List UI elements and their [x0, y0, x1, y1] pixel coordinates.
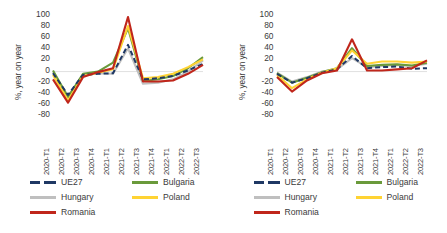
x-tick-label: 2022-T1: [163, 148, 171, 175]
x-axis-tick-labels-right: 2020-T12020-T22020-T32020-T42021-T12021-…: [277, 119, 427, 175]
y-tick-label: -40: [261, 88, 273, 96]
y-tick-label: 20: [41, 54, 50, 62]
x-tick-label: 2022-T3: [193, 148, 201, 175]
legend-item-romania[interactable]: Romania: [254, 208, 319, 217]
legend-label: Romania: [61, 208, 95, 217]
y-axis-tick-labels-right: 100806040200-20-40-60-80: [248, 14, 274, 118]
y-tick-label: -20: [38, 77, 50, 85]
x-tick-label: 2020-T3: [297, 148, 305, 175]
series-line-bulgaria: [277, 48, 427, 82]
x-tick-label: 2022-T1: [387, 148, 395, 175]
legend-item-poland[interactable]: Poland: [356, 193, 414, 202]
legend-label: Bulgaria: [387, 178, 419, 187]
legend-label: Bulgaria: [163, 178, 195, 187]
y-tick-label: -60: [261, 99, 273, 107]
x-tick-label: 2021-T4: [148, 148, 156, 175]
legend-item-ue27[interactable]: UE27: [30, 178, 83, 187]
plot-area-left: [53, 16, 203, 116]
y-tick-label: 40: [41, 43, 50, 51]
legend-label: UE27: [61, 178, 83, 187]
legend-label: Poland: [387, 193, 414, 202]
x-tick-label: 2020-T3: [73, 148, 81, 175]
y-tick-label: -40: [38, 88, 50, 96]
y-tick-label: 20: [264, 54, 273, 62]
legend-swatch-icon: [30, 211, 56, 214]
y-tick-label: 40: [264, 43, 273, 51]
x-tick-label: 2021-T4: [372, 148, 380, 175]
x-tick-label: 2022-T2: [402, 148, 410, 175]
y-tick-label: 80: [264, 21, 273, 29]
x-tick-label: 2021-T3: [357, 148, 365, 175]
plot-area-right: [277, 16, 427, 116]
x-axis-tick-labels-left: 2020-T12020-T22020-T32020-T42021-T12021-…: [53, 119, 203, 175]
x-tick-label: 2021-T2: [342, 148, 350, 175]
legend-item-romania[interactable]: Romania: [30, 208, 95, 217]
x-tick-label: 2020-T2: [282, 148, 290, 175]
line-series-svg-left: [53, 16, 203, 116]
legend-item-hungary[interactable]: Hungary: [30, 193, 93, 202]
chart-left: %, year on year 100806040200-20-40-60-80…: [0, 0, 224, 175]
legend-right: UE27BulgariaHungaryPolandRomania: [254, 178, 444, 228]
legend-swatch-icon: [254, 181, 280, 184]
legend-swatch-icon: [132, 181, 158, 184]
legend-label: Hungary: [285, 193, 317, 202]
x-tick-label: 2022-T2: [178, 148, 186, 175]
legend-label: UE27: [285, 178, 307, 187]
y-tick-label: 100: [260, 10, 274, 18]
legend-swatch-icon: [254, 211, 280, 214]
chart-panel-right: %, year on year 100806040200-20-40-60-80…: [224, 0, 447, 233]
legend-item-poland[interactable]: Poland: [132, 193, 190, 202]
y-tick-label: 0: [269, 66, 274, 74]
legend-swatch-icon: [356, 196, 382, 199]
x-tick-label: 2020-T2: [58, 148, 66, 175]
x-tick-label: 2020-T1: [43, 148, 51, 175]
legend-left: UE27BulgariaHungaryPolandRomania: [30, 178, 220, 228]
legend-swatch-icon: [30, 196, 56, 199]
x-tick-label: 2020-T1: [267, 148, 275, 175]
x-tick-label: 2021-T2: [118, 148, 126, 175]
chart-right: %, year on year 100806040200-20-40-60-80…: [224, 0, 447, 175]
y-tick-label: 0: [45, 66, 50, 74]
dual-chart-figure: %, year on year 100806040200-20-40-60-80…: [0, 0, 447, 233]
legend-swatch-icon: [356, 181, 382, 184]
legend-item-bulgaria[interactable]: Bulgaria: [356, 178, 419, 187]
x-tick-label: 2020-T4: [312, 148, 320, 175]
y-tick-label: -60: [38, 99, 50, 107]
y-tick-label: 60: [264, 32, 273, 40]
legend-swatch-icon: [30, 181, 56, 184]
legend-label: Romania: [285, 208, 319, 217]
y-tick-label: 60: [41, 32, 50, 40]
y-tick-label: -80: [261, 110, 273, 118]
x-tick-label: 2021-T1: [103, 148, 111, 175]
line-series-svg-right: [277, 16, 427, 116]
legend-label: Hungary: [61, 193, 93, 202]
y-tick-label: 80: [41, 21, 50, 29]
legend-label: Poland: [163, 193, 190, 202]
y-tick-label: 100: [36, 10, 50, 18]
chart-panel-left: %, year on year 100806040200-20-40-60-80…: [0, 0, 224, 233]
x-tick-label: 2020-T4: [88, 148, 96, 175]
y-tick-label: -20: [261, 77, 273, 85]
x-tick-label: 2022-T3: [417, 148, 425, 175]
legend-item-bulgaria[interactable]: Bulgaria: [132, 178, 195, 187]
legend-swatch-icon: [132, 196, 158, 199]
y-tick-label: -80: [38, 110, 50, 118]
x-tick-label: 2021-T1: [327, 148, 335, 175]
legend-item-hungary[interactable]: Hungary: [254, 193, 317, 202]
legend-swatch-icon: [254, 196, 280, 199]
x-tick-label: 2021-T3: [133, 148, 141, 175]
y-axis-tick-labels-left: 100806040200-20-40-60-80: [24, 14, 50, 118]
legend-item-ue27[interactable]: UE27: [254, 178, 307, 187]
